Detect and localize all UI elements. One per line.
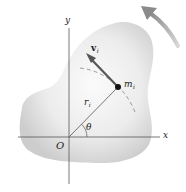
angle-label: θ (86, 123, 91, 132)
mass-label-subscript: i (133, 83, 135, 90)
rigid-body-rotation-diagram: y x O θ ri vi mi (0, 0, 186, 192)
mass-label-letter: m (124, 79, 133, 89)
rigid-body-shape (20, 22, 154, 163)
y-axis-label-text: y (65, 15, 70, 25)
mass-label: mi (124, 80, 135, 89)
x-axis-label: x (163, 131, 168, 140)
velocity-vector-label: vi (91, 44, 99, 53)
position-vector-label: ri (84, 98, 91, 107)
y-axis-label: y (65, 16, 70, 25)
mass-point-icon (115, 84, 121, 90)
velocity-vector-subscript: i (97, 47, 99, 54)
velocity-vector-letter: v (91, 43, 96, 53)
origin-label: O (56, 141, 64, 151)
diagram-canvas (0, 0, 186, 192)
position-vector-letter: r (84, 97, 88, 107)
angle-label-text: θ (86, 122, 91, 132)
position-vector-subscript: i (89, 101, 91, 108)
x-axis-label-text: x (163, 130, 168, 140)
origin-label-text: O (56, 140, 64, 151)
